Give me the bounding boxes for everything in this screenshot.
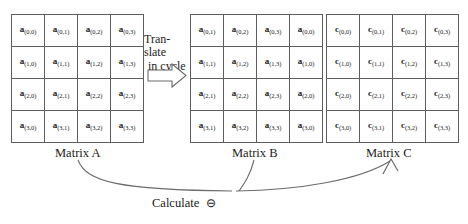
cell-subscript: (1,2) xyxy=(90,60,102,67)
matrix-c-cell-2-2: c(2,2) xyxy=(393,79,426,111)
circled-minus-icon: ⊖ xyxy=(199,196,216,210)
cell-subscript: (2,0) xyxy=(339,92,351,99)
cell-subscript: (1,1) xyxy=(372,60,384,67)
matrix-b-cell-3-1: a(3,2) xyxy=(224,111,257,143)
table-row: a(0,1) a(0,2) a(0,3) a(0,0) xyxy=(191,15,323,47)
matrix-b-cell-3-0: a(3,1) xyxy=(191,111,224,143)
matrix-a-cell-3-0: a(3,0) xyxy=(12,111,45,143)
cell-subscript: (1,0) xyxy=(24,60,36,67)
cell-subscript: (1,2) xyxy=(236,60,248,67)
cell-subscript: (1,1) xyxy=(203,60,215,67)
matrix-a-cell-3-1: a(3,1) xyxy=(45,111,78,143)
matrix-a-cell-1-0: a(1,0) xyxy=(12,47,45,79)
table-row: c(1,0) c(1,1) c(1,2) c(1,3) xyxy=(327,47,459,79)
matrix-a-cell-2-2: a(2,2) xyxy=(78,79,111,111)
cell-subscript: (0,2) xyxy=(90,28,102,35)
cell-subscript: (1,3) xyxy=(438,60,450,67)
cell-subscript: (0,1) xyxy=(57,28,69,35)
cell-subscript: (2,2) xyxy=(90,92,102,99)
cell-subscript: (0,3) xyxy=(269,28,281,35)
table-row: a(1,1) a(1,2) a(1,3) a(1,0) xyxy=(191,47,323,79)
matrix-c-cell-3-1: c(3,1) xyxy=(360,111,393,143)
matrix-b-cell-1-1: a(1,2) xyxy=(224,47,257,79)
matrix-b-cell-2-0: a(2,1) xyxy=(191,79,224,111)
cell-subscript: (0,3) xyxy=(123,28,135,35)
cell-subscript: (2,0) xyxy=(302,92,314,99)
cell-subscript: (3,1) xyxy=(57,124,69,131)
matrix-b-cell-2-1: a(2,2) xyxy=(224,79,257,111)
cell-subscript: (2,3) xyxy=(123,92,135,99)
cell-subscript: (3,2) xyxy=(90,124,102,131)
table-row: a(3,1) a(3,2) a(3,3) a(3,0) xyxy=(191,111,323,143)
matrix-b-cell-0-3: a(0,0) xyxy=(290,15,323,47)
cell-subscript: (3,2) xyxy=(405,124,417,131)
matrix-c-cell-1-3: c(1,3) xyxy=(426,47,459,79)
matrix-c-cell-0-2: c(0,2) xyxy=(393,15,426,47)
table-row: c(3,0) c(3,1) c(3,2) c(3,3) xyxy=(327,111,459,143)
matrix-c-caption: Matrix C xyxy=(366,146,411,161)
cell-subscript: (1,0) xyxy=(302,60,314,67)
matrix-b-cell-3-2: a(3,3) xyxy=(257,111,290,143)
cell-subscript: (0,2) xyxy=(236,28,248,35)
matrix-b-cell-3-3: a(3,0) xyxy=(290,111,323,143)
matrix-a-cell-0-2: a(0,2) xyxy=(78,15,111,47)
matrix-a-cell-3-3: a(3,3) xyxy=(111,111,144,143)
table-row: a(3,0) a(3,1) a(3,2) a(3,3) xyxy=(12,111,144,143)
matrix-b-cell-1-2: a(1,3) xyxy=(257,47,290,79)
cell-subscript: (0,0) xyxy=(302,28,314,35)
matrix-a-cell-0-1: a(0,1) xyxy=(45,15,78,47)
matrix-b-cell-1-0: a(1,1) xyxy=(191,47,224,79)
matrix-c-cell-3-2: c(3,2) xyxy=(393,111,426,143)
cell-subscript: (2,0) xyxy=(24,92,36,99)
table-row: a(0,0) a(0,1) a(0,2) a(0,3) xyxy=(12,15,144,47)
calculate-label-text: Calculate xyxy=(152,196,199,210)
matrix-b-grid: a(0,1) a(0,2) a(0,3) a(0,0) a(1,1) a(1,2… xyxy=(190,14,323,143)
cell-subscript: (1,3) xyxy=(269,60,281,67)
matrix-a-caption: Matrix A xyxy=(55,146,100,161)
matrix-a-cell-3-2: a(3,2) xyxy=(78,111,111,143)
matrix-c-cell-0-0: c(0,0) xyxy=(327,15,360,47)
cell-subscript: (2,1) xyxy=(203,92,215,99)
cell-subscript: (1,2) xyxy=(405,60,417,67)
cell-subscript: (0,0) xyxy=(24,28,36,35)
matrix-b-cell-2-3: a(2,0) xyxy=(290,79,323,111)
matrix-a-cell-1-3: a(1,3) xyxy=(111,47,144,79)
matrix-b-cell-0-0: a(0,1) xyxy=(191,15,224,47)
table-row: c(2,0) c(2,1) c(2,2) c(2,3) xyxy=(327,79,459,111)
diagram-canvas: a(0,0) a(0,1) a(0,2) a(0,3) a(1,0) a(1,1… xyxy=(0,0,468,224)
cell-subscript: (2,2) xyxy=(405,92,417,99)
cell-subscript: (3,3) xyxy=(123,124,135,131)
cell-subscript: (2,2) xyxy=(236,92,248,99)
matrix-c-cell-0-1: c(0,1) xyxy=(360,15,393,47)
translate-line-2: in cycle xyxy=(144,60,192,73)
curve-matrix-b-to-calculate xyxy=(239,160,254,191)
cell-subscript: (0,1) xyxy=(372,28,384,35)
cell-subscript: (3,1) xyxy=(372,124,384,131)
curve-matrix-a-to-calculate xyxy=(78,160,232,191)
matrix-c-cell-2-1: c(2,1) xyxy=(360,79,393,111)
matrix-b-cell-0-2: a(0,3) xyxy=(257,15,290,47)
curve-calculate-to-matrix-c xyxy=(236,159,398,191)
cell-subscript: (3,1) xyxy=(203,124,215,131)
cell-subscript: (1,1) xyxy=(57,60,69,67)
cell-subscript: (1,0) xyxy=(339,60,351,67)
translate-annotation: Tran-slate in cycle xyxy=(144,33,192,73)
matrix-a-cell-1-1: a(1,1) xyxy=(45,47,78,79)
translate-line-1: Tran-slate xyxy=(144,32,170,59)
cell-subscript: (3,2) xyxy=(236,124,248,131)
matrix-c-cell-1-1: c(1,1) xyxy=(360,47,393,79)
cell-subscript: (3,0) xyxy=(302,124,314,131)
matrix-b-cell-0-1: a(0,2) xyxy=(224,15,257,47)
cell-subscript: (0,3) xyxy=(438,28,450,35)
matrix-c-cell-0-3: c(0,3) xyxy=(426,15,459,47)
table-row: a(1,0) a(1,1) a(1,2) a(1,3) xyxy=(12,47,144,79)
matrix-c-cell-2-0: c(2,0) xyxy=(327,79,360,111)
matrix-a-cell-0-0: a(0,0) xyxy=(12,15,45,47)
cell-subscript: (2,1) xyxy=(57,92,69,99)
matrix-a-cell-2-1: a(2,1) xyxy=(45,79,78,111)
cell-subscript: (0,2) xyxy=(405,28,417,35)
matrix-c-cell-1-0: c(1,0) xyxy=(327,47,360,79)
cell-subscript: (3,3) xyxy=(438,124,450,131)
matrix-c-grid: c(0,0) c(0,1) c(0,2) c(0,3) c(1,0) c(1,1… xyxy=(326,14,459,143)
matrix-a-cell-1-2: a(1,2) xyxy=(78,47,111,79)
